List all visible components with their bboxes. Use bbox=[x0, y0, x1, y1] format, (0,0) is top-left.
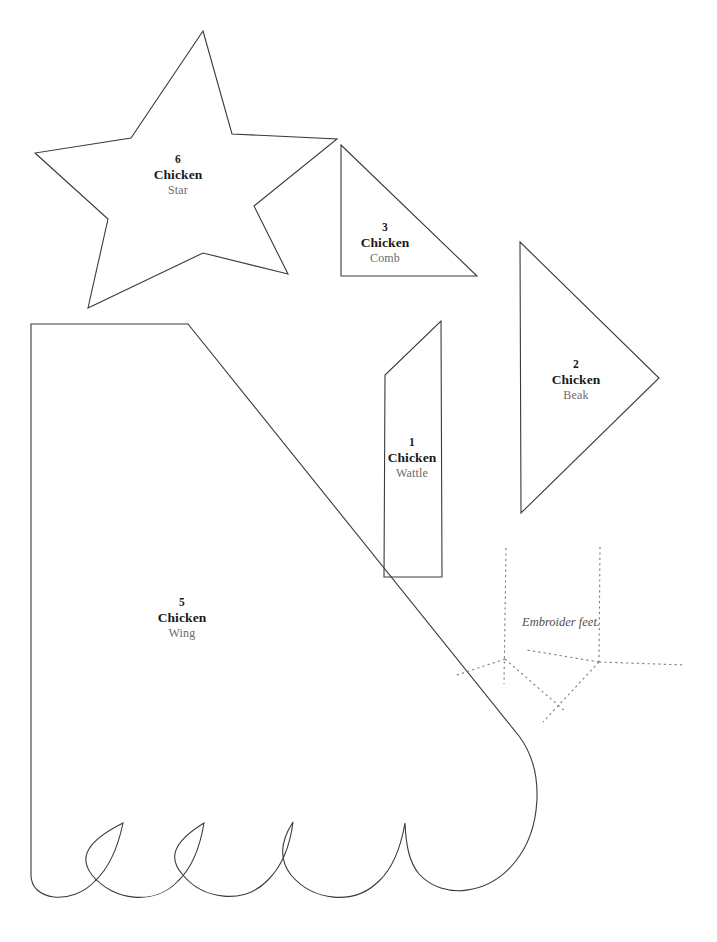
foot-stitch-left-toe-outer bbox=[454, 659, 505, 676]
foot-stitch-left-leg bbox=[504, 548, 506, 684]
piece-outlines bbox=[31, 31, 659, 897]
piece-outline-star bbox=[35, 31, 337, 308]
embroidery-feet-diagram bbox=[454, 547, 685, 722]
foot-stitch-right-toe-down bbox=[543, 662, 599, 722]
pattern-canvas bbox=[0, 0, 717, 942]
pattern-sheet: 6 Chicken Star 3 Chicken Comb 2 Chicken … bbox=[0, 0, 717, 942]
piece-outline-wing bbox=[31, 324, 537, 897]
foot-stitch-right-toe-outer bbox=[599, 662, 685, 665]
foot-stitch-right-leg bbox=[599, 547, 600, 662]
foot-stitch-left-toe-inner bbox=[505, 659, 566, 712]
piece-outline-wattle bbox=[384, 321, 442, 577]
piece-outline-comb bbox=[341, 145, 477, 276]
foot-stitch-right-toe-inner bbox=[527, 650, 599, 662]
piece-outline-beak bbox=[520, 242, 659, 513]
